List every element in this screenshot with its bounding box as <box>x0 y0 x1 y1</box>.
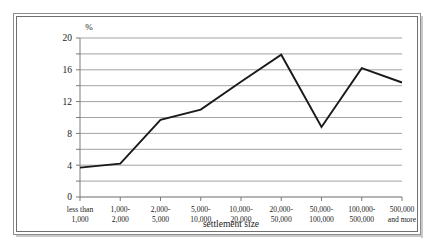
y-tick-label-8: 8 <box>67 129 72 139</box>
y-tick-label-0: 0 <box>67 192 72 202</box>
x-tick-label-2-line1: 5,000 <box>152 215 169 224</box>
y-tick-label-12: 12 <box>63 97 73 107</box>
x-tick-label-5-line0: 20,000- <box>270 205 294 214</box>
x-tick-label-6-line1: 100,000 <box>309 215 334 224</box>
figure-root: 048121620 less than1,0001,000-2,0002,000… <box>0 0 435 248</box>
x-axis-title: settlement size <box>203 219 259 229</box>
x-tick-label-2-line0: 2,000- <box>151 205 171 214</box>
frame-shadow-right <box>421 16 423 238</box>
x-tick-label-5-line1: 50,000 <box>271 215 292 224</box>
x-tick-label-1-line1: 2,000 <box>112 215 129 224</box>
x-tick-label-0-line0: less than <box>67 205 94 214</box>
data-series-line <box>80 55 402 168</box>
x-tick-label-6-line0: 50,000- <box>310 205 334 214</box>
y-axis-tick-labels: 048121620 <box>63 33 73 202</box>
x-tick-label-4-line0: 10,000- <box>229 205 253 214</box>
x-tick-label-0-line1: 1,000 <box>71 215 88 224</box>
x-tickmarks-group <box>80 197 402 201</box>
x-tick-label-8-line1: and more <box>388 215 417 224</box>
y-tickmarks-group <box>76 38 80 197</box>
y-tick-label-16: 16 <box>63 65 73 75</box>
x-tick-label-7-line0: 100,000- <box>348 205 376 214</box>
gridlines-group <box>80 38 402 197</box>
x-tick-label-3-line0: 5,000- <box>191 205 211 214</box>
x-tick-label-7-line1: 500,000 <box>349 215 374 224</box>
y-tick-label-20: 20 <box>63 33 73 43</box>
frame-shadow-bottom <box>16 235 422 237</box>
x-tick-label-8-line0: 500,000 <box>390 205 415 214</box>
line-chart: 048121620 less than1,0001,000-2,0002,000… <box>16 16 418 232</box>
y-tick-label-4: 4 <box>67 161 72 171</box>
x-tick-label-1-line0: 1,000- <box>110 205 130 214</box>
y-axis-unit-label: % <box>85 22 93 32</box>
